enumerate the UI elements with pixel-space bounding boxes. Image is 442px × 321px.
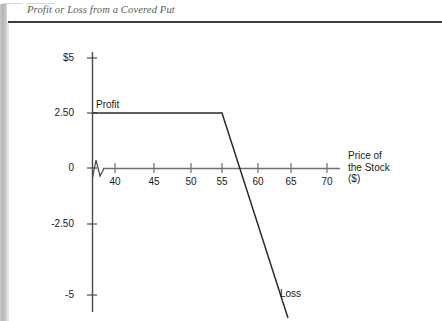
annotation-loss: Loss xyxy=(280,288,301,299)
x-axis-title-line-3: ($) xyxy=(348,173,390,185)
x-tick-label-65: 65 xyxy=(278,176,304,188)
x-tick-label-50: 50 xyxy=(178,176,204,188)
x-tick-label-55: 55 xyxy=(209,176,235,188)
x-tick-label-60: 60 xyxy=(245,176,271,188)
y-tick-label-2-50: 2.50 xyxy=(30,107,74,119)
x-axis-title-line-1: Price of xyxy=(348,150,390,162)
y-tick-label-neg-2-50: -2.50 xyxy=(30,218,74,230)
x-axis-title-line-2: the Stock xyxy=(348,162,390,174)
y-tick-label-0: 0 xyxy=(30,162,74,174)
x-tick-label-45: 45 xyxy=(141,176,167,188)
figure-page: ―― ――― Profit or Loss from a Covered Put xyxy=(0,0,442,321)
payoff-line-series xyxy=(93,113,288,318)
y-tick-label-neg-5: -5 xyxy=(30,289,74,301)
x-tick-label-70: 70 xyxy=(314,176,340,188)
y-tick-label-5: $5 xyxy=(30,52,74,64)
annotation-profit: Profit xyxy=(96,99,119,110)
x-axis-title: Price of the Stock ($) xyxy=(348,150,390,185)
x-tick-label-40: 40 xyxy=(102,176,128,188)
